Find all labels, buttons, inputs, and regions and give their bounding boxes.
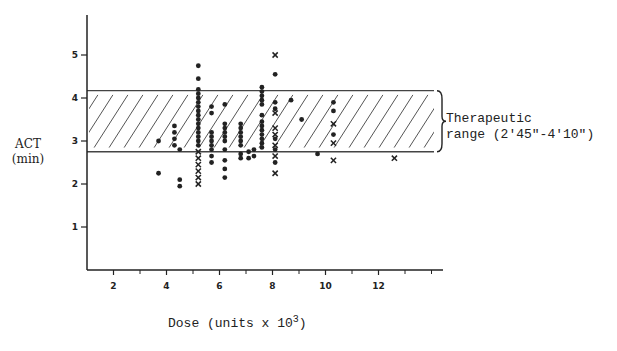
data-point-dot: [260, 85, 265, 90]
y-axis-label: ACT (min): [4, 137, 52, 167]
data-point-dot: [196, 91, 201, 96]
data-point-cross: [196, 169, 201, 174]
data-point-cross: [273, 171, 278, 176]
data-point-dot: [196, 113, 201, 118]
data-point-dot: [222, 102, 227, 107]
data-point-dot: [260, 128, 265, 133]
hatch-line: [124, 95, 158, 148]
data-point-dot: [209, 160, 214, 165]
data-point-dot: [260, 119, 265, 124]
hatch-line: [214, 95, 248, 148]
data-point-dot: [209, 111, 214, 116]
data-point-cross: [273, 110, 278, 115]
x-axis-label: Dose (units x 103): [168, 314, 307, 331]
x-axis-ticks: 24681012: [110, 270, 431, 291]
data-point-dot: [238, 139, 243, 144]
data-point-cross: [196, 175, 201, 180]
data-point-dot: [273, 160, 278, 165]
data-point-dot: [246, 149, 251, 154]
hatch-line: [109, 95, 143, 148]
data-point-cross: [273, 52, 278, 57]
data-point-dot: [252, 154, 257, 159]
data-point-dot: [196, 63, 201, 68]
data-point-dot: [238, 143, 243, 148]
data-point-dot: [196, 76, 201, 81]
data-point-cross: [196, 162, 201, 167]
data-point-dot: [209, 143, 214, 148]
y-tick-label: 3: [72, 136, 78, 146]
therapeutic-range-label-line2: range (2'45"-4'10"): [446, 127, 594, 143]
data-point-cross: [331, 158, 336, 163]
data-point-dot: [196, 87, 201, 92]
data-point-dot: [196, 134, 201, 139]
y-axis-ticks: 12345: [72, 50, 87, 232]
range-brace-icon: [437, 91, 446, 152]
data-point-dot: [209, 104, 214, 109]
y-tick-label: 5: [72, 50, 78, 60]
data-point-dot: [196, 100, 201, 105]
data-point-dot: [289, 98, 294, 103]
hatch-line: [379, 95, 413, 148]
data-point-dot: [196, 130, 201, 135]
data-point-dot: [260, 141, 265, 146]
data-point-dot: [177, 147, 182, 152]
data-point-dot: [331, 132, 336, 137]
data-point-dot: [238, 156, 243, 161]
x-axis-label-close: ): [299, 316, 307, 331]
data-point-cross: [273, 143, 278, 148]
data-point-dot: [209, 134, 214, 139]
data-point-dot: [222, 139, 227, 144]
data-point-dot: [222, 121, 227, 126]
data-point-dot: [196, 96, 201, 101]
data-point-dot: [177, 184, 182, 189]
data-point-dot: [196, 109, 201, 114]
data-point-dot: [331, 109, 336, 114]
data-point-cross: [196, 156, 201, 161]
data-point-dot: [196, 126, 201, 131]
x-axis-label-text: Dose (units x 10: [168, 316, 293, 331]
data-point-cross: [331, 141, 336, 146]
hatch-line: [289, 95, 323, 148]
hatch-line: [364, 95, 398, 148]
y-tick-label: 4: [72, 93, 78, 103]
x-tick-label: 2: [110, 281, 116, 291]
x-tick-label: 4: [163, 281, 169, 291]
data-point-dot: [260, 145, 265, 150]
data-point-dot: [222, 167, 227, 172]
data-point-dot: [260, 124, 265, 129]
data-point-dot: [315, 152, 320, 157]
data-point-dot: [209, 139, 214, 144]
data-point-dot: [260, 132, 265, 137]
data-point-dot: [260, 113, 265, 118]
data-point-dot: [222, 175, 227, 180]
hatch-line: [229, 95, 263, 148]
data-point-dot: [196, 121, 201, 126]
x-tick-label: 12: [372, 281, 385, 291]
hatch-line: [334, 95, 368, 148]
data-point-dot: [196, 143, 201, 148]
x-tick-label: 6: [216, 281, 222, 291]
data-point-dot: [177, 177, 182, 182]
hatch-line: [64, 95, 98, 148]
data-point-dot: [238, 152, 243, 157]
data-point-dot: [238, 126, 243, 131]
therapeutic-range-label: Therapeutic range (2'45"-4'10"): [446, 111, 594, 143]
data-point-dot: [273, 72, 278, 77]
x-tick-label: 8: [269, 281, 275, 291]
data-point-cross: [392, 156, 397, 161]
data-point-dot: [260, 102, 265, 107]
data-point-cross: [273, 126, 278, 131]
hatch-line: [199, 95, 233, 148]
axes: [87, 15, 443, 270]
y-tick-label: 2: [72, 179, 78, 189]
data-point-dot: [172, 136, 177, 141]
data-point-dot: [196, 139, 201, 144]
therapeutic-range-label-line1: Therapeutic: [446, 111, 594, 127]
data-point-dot: [238, 121, 243, 126]
hatch-line: [409, 95, 443, 148]
data-point-dot: [156, 139, 161, 144]
data-point-cross: [273, 132, 278, 137]
data-point-dot: [156, 171, 161, 176]
data-point-dot: [246, 156, 251, 161]
scatter-chart: 24681012 12345: [0, 0, 617, 351]
